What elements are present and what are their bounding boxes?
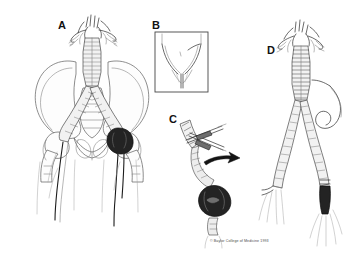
panel-d-suture-needle	[312, 80, 342, 128]
medical-illustration-figure: A B C D © Baylor College of Medicine 199…	[0, 0, 355, 268]
panel-b-artwork	[155, 32, 208, 92]
copyright-notice: © Baylor College of Medicine 1993	[210, 239, 269, 243]
panel-label-b: B	[152, 20, 160, 31]
panel-b-frame	[155, 32, 208, 92]
panel-c-excised-aneurysm	[199, 185, 231, 216]
panel-d-left-distal-anastomosis	[259, 186, 284, 224]
panel-c-rotated-segment	[191, 146, 214, 188]
panel-label-a: A	[58, 20, 66, 31]
panel-label-c: C	[169, 114, 177, 125]
panel-d-graft-body	[292, 46, 310, 100]
panel-d-graft-limbs	[273, 100, 329, 188]
illustration-artwork	[0, 0, 355, 268]
panel-c-distal-stump	[205, 218, 222, 248]
panel-a-artwork	[35, 15, 149, 226]
panel-a-graft-body	[83, 38, 101, 86]
panel-a-anastomotic-aneurysm	[107, 128, 133, 226]
panel-d-right-distal-anastomosis	[310, 180, 342, 246]
panel-c-artwork	[180, 120, 240, 248]
panel-label-d: D	[267, 45, 275, 56]
panel-c-direction-arrow	[204, 152, 240, 165]
